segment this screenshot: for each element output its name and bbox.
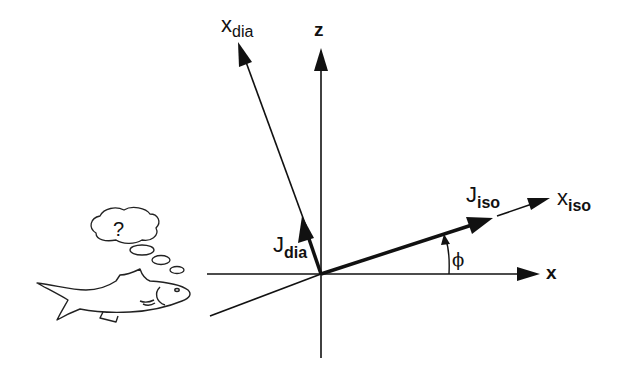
j-iso-arrowhead-icon — [466, 217, 493, 234]
thought-bubble — [91, 207, 184, 273]
phi-angle-arc — [441, 234, 450, 274]
x-arrowhead-icon — [517, 267, 540, 281]
j-iso-label-sub: iso — [477, 194, 500, 211]
x-iso-axis — [497, 198, 550, 216]
fish-illustration — [37, 269, 190, 322]
j-dia-label-main: J — [273, 232, 284, 257]
x-iso-label: xiso — [557, 187, 591, 214]
phi-angle-label: ϕ — [452, 251, 464, 269]
x-iso-label-sub: iso — [568, 197, 591, 214]
x-dia-axis — [238, 42, 306, 226]
x-dia-label-main: x — [221, 12, 232, 37]
j-iso-label: Jiso — [466, 184, 500, 211]
j-iso-vector — [321, 217, 493, 274]
x-dia-label-sub: dia — [232, 23, 253, 40]
question-mark-icon: ? — [113, 219, 124, 239]
x-dia-arrowhead-icon — [238, 42, 252, 67]
x-iso-label-main: x — [557, 185, 568, 210]
x-dia-label: xdia — [221, 14, 253, 40]
j-iso-label-main: J — [466, 182, 477, 207]
diagram-canvas: z x xdia xiso Jiso Jdia ϕ ? — [0, 0, 622, 373]
z-arrowhead-icon — [314, 48, 328, 71]
x-axis-label: x — [546, 263, 557, 282]
depth-axis — [210, 274, 321, 316]
coordinate-diagram — [0, 0, 622, 373]
j-dia-label-sub: dia — [284, 244, 307, 261]
j-dia-label: Jdia — [273, 234, 307, 261]
x-axis — [207, 267, 540, 281]
z-axis-label: z — [314, 20, 324, 39]
x-iso-arrowhead-icon — [527, 198, 550, 210]
z-axis — [314, 48, 328, 358]
